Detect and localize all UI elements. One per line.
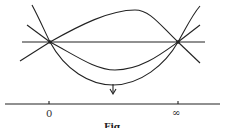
label-zero: 0: [46, 108, 52, 119]
lower-curve: [50, 42, 178, 85]
right-node: [176, 40, 180, 44]
left-cross-line-upper: [27, 25, 50, 42]
label-infinity: ∞: [172, 107, 180, 118]
left-cross-line-lower: [20, 42, 50, 61]
left-node: [48, 40, 52, 44]
right-steep-curve: [178, 6, 200, 42]
caption: Fig.: [104, 122, 123, 128]
right-cross-line-upper: [178, 25, 200, 42]
right-cross-line-lower: [178, 42, 200, 63]
diagram-canvas: 0 ∞ Fig.: [0, 0, 227, 128]
curves: [5, 5, 220, 104]
left-steep-curve: [32, 5, 50, 42]
upper-curve: [50, 10, 178, 42]
